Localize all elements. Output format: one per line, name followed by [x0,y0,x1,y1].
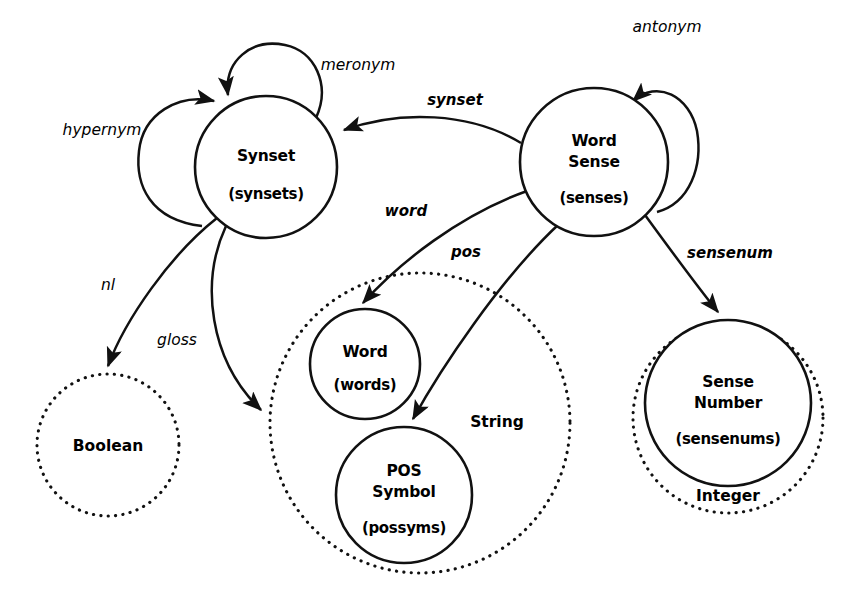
boolean-type-label: Boolean [73,437,143,455]
synset-entity-name: Synset [237,147,296,165]
relation-hypernym[interactable]: hypernym [63,99,214,226]
pos-symbol-entity-table: (possyms) [362,519,446,537]
synset-edge-label: synset [427,91,483,109]
synset-edge-path [344,117,521,143]
sensenum-edge-label: sensenum [687,244,773,262]
string-type-label: String [470,413,524,431]
synset-entity-circle [195,96,337,238]
hypernym-edge-label: hypernym [63,121,142,139]
type-boolean[interactable]: Boolean [37,374,179,516]
word-sense-entity-table: (senses) [559,189,628,207]
entity-word-sense[interactable]: Word Sense (senses) [520,88,668,236]
relation-synset[interactable]: synset [344,91,521,143]
pos-symbol-entity-name-line2: Symbol [372,483,435,501]
wordnet-er-diagram: Boolean String Integer hypernym meronym … [0,0,863,598]
pos-edge-path [413,224,559,419]
word-entity-name: Word [342,343,387,361]
word-sense-entity-name-line1: Word [571,132,616,150]
pos-symbol-entity-name-line1: POS [386,462,421,480]
entity-pos-symbol[interactable]: POS Symbol (possyms) [336,427,472,563]
meronym-edge-label: meronym [321,56,396,74]
relation-sensenum[interactable]: sensenum [645,215,773,312]
er-diagram-canvas: Boolean String Integer hypernym meronym … [0,0,863,598]
integer-type-label: Integer [696,487,760,505]
antonym-edge-label: antonym [633,18,702,36]
relation-gloss[interactable]: gloss [157,226,261,410]
entity-sense-number[interactable]: Sense Number (sensenums) [645,320,811,486]
gloss-edge-label: gloss [157,331,197,349]
word-entity-table: (words) [334,376,397,394]
pos-edge-label: pos [450,243,481,261]
entity-synset[interactable]: Synset (synsets) [195,96,337,238]
word-entity-circle [310,309,420,419]
entity-word[interactable]: Word (words) [310,309,420,419]
sense-number-entity-name-line1: Sense [702,373,753,391]
sense-number-entity-name-line2: Number [694,394,763,412]
word-sense-entity-name-line2: Sense [568,153,619,171]
nl-edge-label: nl [101,276,116,294]
relation-pos[interactable]: pos [413,224,559,419]
synset-entity-table: (synsets) [228,185,304,203]
gloss-edge-path [212,226,261,410]
sensenum-edge-path [645,215,718,312]
word-edge-label: word [385,202,428,220]
sense-number-entity-table: (sensenums) [675,430,780,448]
